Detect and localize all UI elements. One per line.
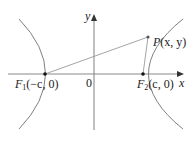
y-axis-arrow-icon: [91, 14, 97, 21]
point-P-label: P(x, y): [152, 35, 186, 49]
line-F2-P: [143, 37, 148, 74]
origin-label: 0: [86, 76, 92, 90]
focus-F2-point: [141, 72, 145, 76]
focus-F1-point: [43, 72, 47, 76]
y-axis-label: y: [84, 9, 91, 23]
hyperbola-diagram: y x 0 F1(−c, 0) F2(c, 0) P(x, y): [0, 0, 194, 144]
line-F1-P: [45, 37, 148, 74]
point-P: [146, 35, 149, 38]
y-axis: [91, 14, 97, 130]
focus-F2-label: F2(c, 0): [136, 77, 174, 92]
focus-F1-label: F1(−c, 0): [14, 77, 58, 92]
x-axis-label: x: [178, 76, 185, 90]
